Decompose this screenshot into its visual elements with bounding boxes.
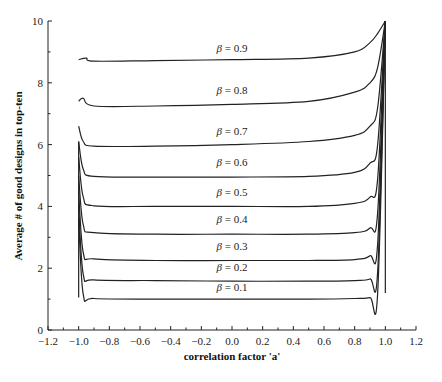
y-tick-label: 2 (38, 262, 44, 274)
x-tick-label: 0.6 (317, 335, 331, 347)
curve-label: β = 0.6 (216, 156, 248, 168)
x-tick-label: 0.8 (348, 335, 362, 347)
y-axis-title: Average # of good designs in top-ten (12, 91, 24, 260)
x-tick-label: −0.4 (161, 335, 181, 347)
x-tick-label: 0.2 (256, 335, 270, 347)
curve-label: β = 0.3 (216, 240, 248, 252)
curve-label: β = 0.2 (216, 261, 248, 273)
x-axis-title: correlation factor 'a' (184, 350, 281, 362)
x-tick-label: 0.4 (286, 335, 300, 347)
curve-label: β = 0.7 (216, 125, 248, 137)
y-tick-label: 10 (32, 15, 44, 27)
x-tick-label: 0.0 (225, 335, 239, 347)
curve-label: β = 0.8 (216, 84, 248, 96)
x-tick-label: −1.0 (69, 335, 89, 347)
curve-label: β = 0.5 (216, 186, 248, 198)
x-tick-label: 1.2 (409, 335, 423, 347)
x-tick-label: −0.8 (99, 335, 119, 347)
x-tick-label: 1.0 (378, 335, 392, 347)
y-tick-label: 0 (38, 324, 44, 336)
y-tick-label: 8 (38, 77, 44, 89)
chart: −1.2−1.0−0.8−0.6−0.4−0.20.00.20.40.60.81… (0, 0, 442, 382)
x-tick-label: −0.6 (130, 335, 150, 347)
series-line-β=0.3 (79, 21, 386, 264)
y-tick-label: 6 (38, 139, 44, 151)
x-tick-label: −0.2 (191, 335, 211, 347)
curve-label: β = 0.1 (216, 281, 248, 293)
curve-label: β = 0.4 (216, 213, 248, 225)
curve-label: β = 0.9 (216, 42, 248, 54)
curve-labels: β = 0.9β = 0.8β = 0.7β = 0.6β = 0.5β = 0… (216, 42, 248, 293)
x-tick-label: −1.2 (38, 335, 58, 347)
y-tick-label: 4 (38, 200, 44, 212)
axes: −1.2−1.0−0.8−0.6−0.4−0.20.00.20.40.60.81… (32, 15, 423, 347)
